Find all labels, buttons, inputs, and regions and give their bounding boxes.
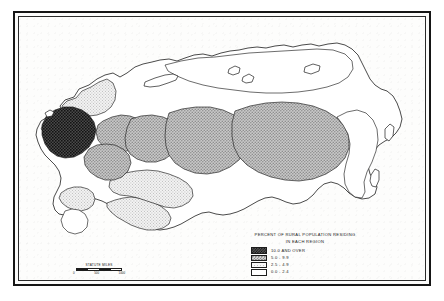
legend-swatch-light xyxy=(251,262,267,269)
scale-tick-0: 0 xyxy=(73,271,75,275)
legend-swatch-medium xyxy=(251,255,267,262)
legend-swatch-blank xyxy=(251,269,267,276)
scale-tick-labels: 0 500 1000 xyxy=(73,271,125,275)
legend-row-0-to-2-4: 0.0 - 2.4 xyxy=(251,269,375,276)
region-transcaucasus xyxy=(61,209,88,234)
scale-tick-1: 500 xyxy=(94,271,99,275)
legend-entries: 10.0 AND OVER 5.0 - 9.9 2.5 - 4.9 0.0 - … xyxy=(251,247,375,276)
legend-label-0-to-2-4: 0.0 - 2.4 xyxy=(271,270,289,274)
legend-title-line2: IN EACH REGION xyxy=(235,240,375,244)
legend-title-line1: PERCENT OF RURAL POPULATION RESIDING xyxy=(235,233,375,237)
scale-caption: STATUTE MILES xyxy=(67,263,131,267)
map-inner-frame: STATUTE MILES 0 500 1000 PERCENT OF RURA… xyxy=(18,16,426,281)
scale-bar: STATUTE MILES 0 500 1000 xyxy=(67,263,131,275)
map-legend: PERCENT OF RURAL POPULATION RESIDING IN … xyxy=(235,233,375,276)
legend-row-2-5-to-4-9: 2.5 - 4.9 xyxy=(251,262,375,269)
scale-tick-2: 1000 xyxy=(119,271,125,275)
legend-label-5-to-9: 5.0 - 9.9 xyxy=(271,256,289,260)
legend-label-2-5-to-4-9: 2.5 - 4.9 xyxy=(271,263,289,267)
map-plate: STATUTE MILES 0 500 1000 PERCENT OF RURA… xyxy=(13,11,431,286)
legend-swatch-dark xyxy=(251,247,267,254)
legend-row-5-to-9: 5.0 - 9.9 xyxy=(251,254,375,261)
legend-row-10-and-over: 10.0 AND OVER xyxy=(251,247,375,254)
island-sakhalin xyxy=(370,169,379,187)
legend-label-10-and-over: 10.0 AND OVER xyxy=(271,249,305,253)
